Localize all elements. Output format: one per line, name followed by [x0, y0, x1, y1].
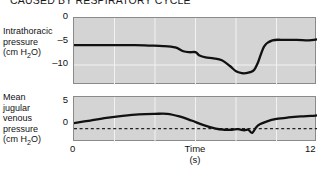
y-axis-label-line: pressure	[3, 124, 41, 135]
y-tick-top-minus5: –5	[38, 34, 68, 45]
y-axis-label-units-suffix: O)	[31, 134, 41, 144]
panel-intrathoracic-pressure	[73, 17, 316, 84]
panel-mean-jugular-venous-pressure	[73, 96, 316, 141]
plot-top-svg	[74, 18, 317, 85]
y-axis-label-units-prefix: (cm H	[3, 134, 27, 144]
y-tick-bottom-0: 0	[38, 116, 68, 127]
y-axis-label-units-suffix: O)	[31, 47, 41, 57]
y-tick-top-minus10: –10	[38, 57, 68, 68]
x-tick-0: 0	[70, 143, 75, 154]
y-axis-label-line: (cm H2O)	[3, 134, 41, 148]
figure-title: CAUSED BY RESPIRATORY CYCLE	[10, 0, 191, 6]
figure-container: CAUSED BY RESPIRATORY CYCLE Intrathoraci…	[0, 0, 325, 169]
x-tick-12: 12	[305, 143, 316, 154]
x-axis-title: Time	[150, 143, 240, 154]
y-axis-label-line: Mean	[3, 92, 41, 103]
y-axis-label-line: venous	[3, 113, 41, 124]
plot-bottom-svg	[74, 97, 317, 142]
x-axis-units: (s)	[150, 154, 240, 165]
y-axis-label-units-prefix: (cm H	[3, 47, 27, 57]
y-axis-label-line: jugular	[3, 103, 41, 114]
y-tick-top-0: 0	[38, 10, 68, 21]
gridlines-bottom	[115, 97, 277, 142]
y-axis-label-jugular: Mean jugular venous pressure (cm H2O)	[3, 92, 41, 148]
y-tick-bottom-5: 5	[38, 94, 68, 105]
